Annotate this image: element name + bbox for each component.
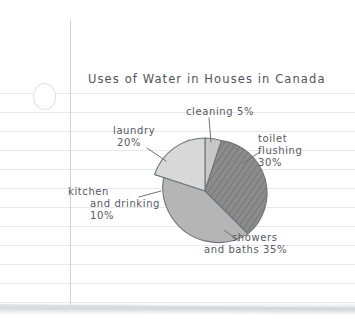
pie-label-kitchen-line2: and drinking: [90, 198, 160, 210]
pie-label-cleaning-text: cleaning 5%: [186, 106, 254, 117]
pie-label-showers-line2: and baths 35%: [204, 244, 287, 256]
pie-label-showers-line1: showers: [232, 232, 278, 243]
pie-label-laundry-line1: laundry: [113, 125, 155, 136]
pie-label-toilet-line2: flushing: [258, 145, 302, 157]
pie-label-toilet-flushing: toilet flushing 30%: [258, 133, 302, 168]
notebook-page: Uses of Water in Houses in Canada cleani…: [0, 0, 355, 335]
leader-line-laundry: [147, 148, 166, 161]
pie-label-kitchen-and-drinking: kitchen and drinking 10%: [68, 186, 160, 221]
pie-label-laundry-value: 20%: [117, 137, 155, 149]
pie-label-laundry: laundry 20%: [113, 125, 155, 149]
pie-label-kitchen-value: 10%: [90, 210, 160, 222]
pie-label-toilet-value: 30%: [258, 157, 302, 169]
pie-label-kitchen-line1: kitchen: [68, 186, 109, 197]
pie-label-cleaning: cleaning 5%: [186, 106, 254, 118]
pie-label-showers-and-baths: showers and baths 35%: [232, 232, 287, 256]
pie-label-toilet-line1: toilet: [258, 133, 287, 144]
pie-slice-laundry: [155, 138, 205, 191]
